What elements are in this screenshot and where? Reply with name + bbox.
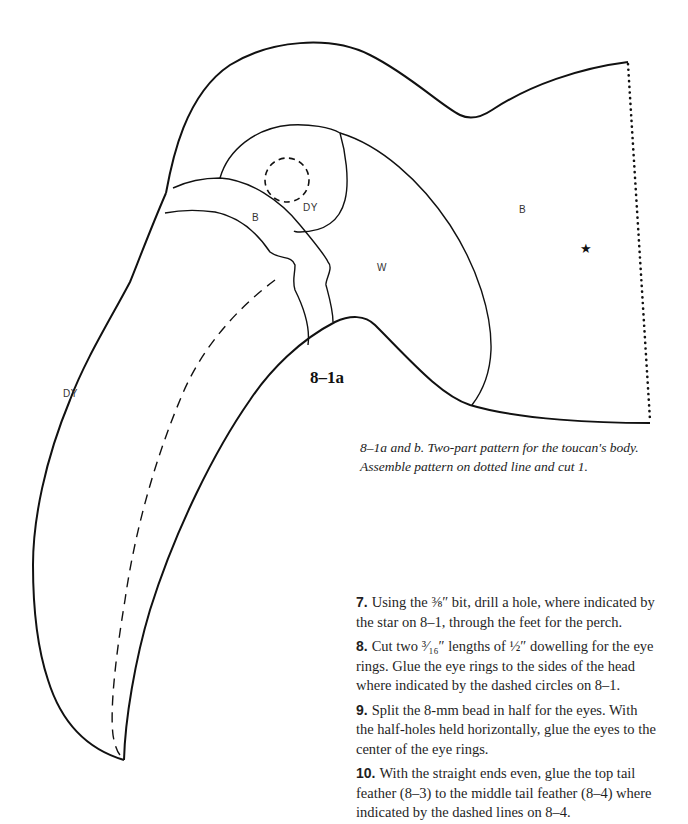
- beak-dashed-line: [112, 280, 275, 757]
- region-label-b-body: B: [519, 204, 526, 215]
- eye-patch-outline: [220, 125, 347, 232]
- step-9: 9.Split the 8-mm bead in half for the ey…: [356, 701, 656, 760]
- step-text: Split the 8-mm bead in half for the eyes…: [356, 702, 656, 757]
- step-number: 9.: [356, 702, 368, 718]
- figure-caption: 8–1a and b. Two-part pattern for the tou…: [360, 438, 660, 476]
- step-text: Using the ⅜″ bit, drill a hole, where in…: [356, 594, 655, 630]
- region-label-w-face: W: [377, 262, 387, 273]
- outline-top: [166, 43, 628, 193]
- step-number: 10.: [356, 765, 375, 781]
- step-number: 8.: [356, 638, 368, 654]
- face-outline: [340, 133, 491, 405]
- step-8: 8.Cut two ³⁄₁₆″ lengths of ½″ dowelling …: [356, 637, 656, 696]
- step-number: 7.: [356, 594, 368, 610]
- instruction-steps: 7.Using the ⅜″ bit, drill a hole, where …: [356, 593, 656, 824]
- star-icon: ★: [580, 242, 592, 255]
- step-text: With the straight ends even, glue the to…: [356, 765, 652, 820]
- outline-beak-left: [33, 193, 166, 760]
- step-7: 7.Using the ⅜″ bit, drill a hole, where …: [356, 593, 656, 632]
- step-10: 10.With the straight ends even, glue the…: [356, 764, 656, 823]
- region-label-dy-beak: DY: [63, 388, 78, 399]
- band-lower-line: [165, 211, 308, 345]
- figure-label: 8–1a: [310, 368, 344, 388]
- dotted-assembly-line: [628, 64, 650, 420]
- step-text: Cut two ³⁄₁₆″ lengths of ½″ dowelling fo…: [356, 638, 654, 693]
- eye-ring-dashed-circle: [265, 158, 309, 202]
- region-label-dy-eye: DY: [303, 202, 318, 213]
- region-label-b-band: B: [252, 212, 259, 223]
- band-upper-line: [173, 178, 333, 322]
